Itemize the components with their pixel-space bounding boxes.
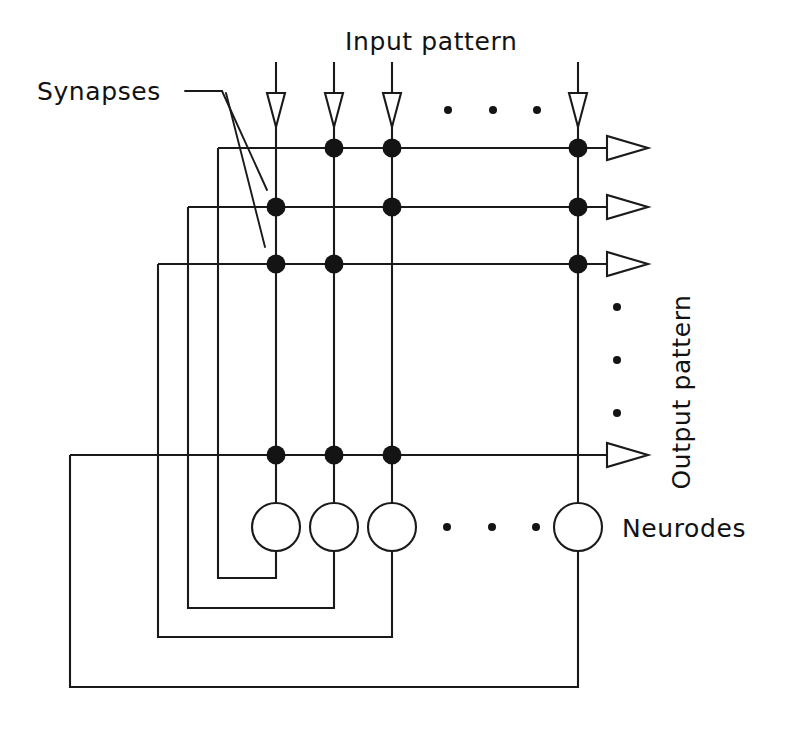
neurode-3 [368, 503, 416, 551]
output-ellipsis-dot-1 [613, 303, 621, 311]
output-arrowhead-2 [607, 195, 648, 219]
neurode-ellipsis-dot-3 [532, 523, 540, 531]
input-ellipsis-dot-1 [444, 106, 452, 114]
neurode-ellipsis-dot-1 [443, 523, 451, 531]
feedback-loops-group [70, 148, 578, 687]
output-ellipsis-dot-3 [613, 409, 621, 417]
neurode-2 [310, 503, 358, 551]
output-arrowhead-1 [607, 136, 648, 160]
input-lines-group [276, 62, 578, 503]
neurode-ellipsis-dot-2 [488, 523, 496, 531]
synapse-dot-r1c2 [325, 139, 344, 158]
input-ellipsis-dot-3 [533, 106, 541, 114]
synapse-dot-r1c3 [383, 139, 402, 158]
input-ellipsis-group [444, 106, 541, 114]
neurode-n [554, 503, 602, 551]
synapse-dot-rnc1 [267, 446, 286, 465]
output-lines-group [70, 148, 610, 455]
feedback-loop-2 [188, 207, 334, 608]
label-neurodes: Neurodes [622, 514, 746, 543]
synapse-dot-r3c2 [325, 255, 344, 274]
output-ellipsis-dot-2 [613, 356, 621, 364]
neurode-ellipsis-group [443, 523, 540, 531]
synapse-dot-r2c1 [267, 198, 286, 217]
synapse-dot-r2c3 [383, 198, 402, 217]
synapse-dot-rnc3 [383, 446, 402, 465]
output-arrowhead-n [607, 443, 648, 467]
input-arrowhead-1 [267, 93, 285, 127]
output-arrowheads-group [607, 136, 648, 467]
output-ellipsis-group [613, 303, 621, 417]
synapse-dot-r3c1 [267, 255, 286, 274]
synapse-dot-r3cn [569, 255, 588, 274]
diagram-canvas: Input pattern Synapses Output pattern Ne… [0, 0, 791, 734]
output-arrowhead-3 [607, 252, 648, 276]
synapse-dots-group [267, 139, 588, 465]
synapse-dot-r2cn [569, 198, 588, 217]
neurodes-group [252, 503, 602, 551]
synapses-leader-group [185, 91, 267, 247]
label-synapses: Synapses [37, 77, 161, 106]
synapse-dot-rnc2 [325, 446, 344, 465]
synapses-leader-branch-2 [226, 93, 265, 247]
synapse-dot-r1cn [569, 139, 588, 158]
neurode-1 [252, 503, 300, 551]
input-arrowhead-2 [325, 93, 343, 127]
label-output-pattern: Output pattern [667, 294, 696, 489]
neural-network-crossbar-diagram: Input pattern Synapses Output pattern Ne… [0, 0, 791, 734]
input-ellipsis-dot-2 [489, 106, 497, 114]
label-input-pattern: Input pattern [345, 27, 517, 56]
input-arrowhead-n [569, 93, 587, 127]
input-arrowhead-3 [383, 93, 401, 127]
feedback-loop-n [70, 455, 578, 687]
